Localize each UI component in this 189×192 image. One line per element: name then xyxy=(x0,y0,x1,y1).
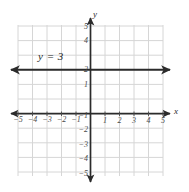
coordinate-plane-figure xyxy=(0,0,189,192)
x-tick-label-5: 5 xyxy=(157,117,169,125)
line-equation-annotation: y = 3 xyxy=(38,51,64,62)
y-tick-label--5: −5 xyxy=(74,170,88,178)
graph-screenshot: −5 −4 −3 −2 −1 1 2 3 4 5 5 4 2 1 −1 −2 −… xyxy=(0,0,189,192)
x-axis-label: x xyxy=(174,107,178,116)
x-tick-label-4: 4 xyxy=(143,117,155,125)
y-tick-label-4: 4 xyxy=(78,37,88,45)
y-tick-label-5: 5 xyxy=(78,23,88,31)
y-tick-label--1: −1 xyxy=(74,112,88,120)
y-tick-label--4: −4 xyxy=(74,155,88,163)
y-tick-label-1: 1 xyxy=(78,81,88,89)
y-tick-label--3: −3 xyxy=(74,141,88,149)
x-tick-label-2: 2 xyxy=(114,117,126,125)
x-tick-label-1: 1 xyxy=(99,117,111,125)
y-axis-label: y xyxy=(93,10,97,19)
y-tick-label--2: −2 xyxy=(74,126,88,134)
y-tick-label-2: 2 xyxy=(78,66,88,74)
x-tick-label-3: 3 xyxy=(128,117,140,125)
